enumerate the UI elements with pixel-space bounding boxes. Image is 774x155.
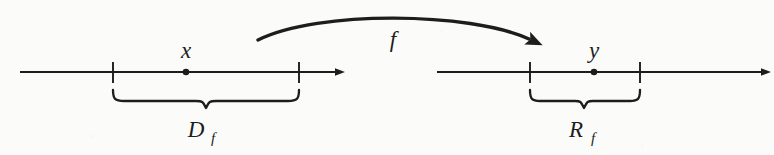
range-number-line-group: y R f	[437, 38, 762, 146]
function-label: f	[390, 27, 400, 52]
function-domain-range-diagram: x D f f y R f	[0, 0, 774, 155]
domain-set-label-subscript: f	[211, 130, 217, 146]
range-brace	[530, 90, 640, 108]
domain-number-line-group: x D f	[20, 38, 336, 146]
range-set-label-base: R	[568, 117, 583, 142]
domain-set-label-base: D	[187, 117, 205, 142]
domain-point-dot	[183, 69, 190, 76]
range-set-label-subscript: f	[591, 130, 597, 146]
diagram-canvas: x D f f y R f	[0, 0, 774, 155]
domain-brace	[113, 90, 299, 108]
domain-set-label: D f	[187, 117, 217, 146]
range-point-label: y	[587, 38, 600, 63]
function-mapping-group: f	[258, 18, 529, 52]
domain-point-label: x	[180, 38, 192, 63]
range-point-dot	[591, 69, 598, 76]
range-set-label: R f	[568, 117, 597, 146]
